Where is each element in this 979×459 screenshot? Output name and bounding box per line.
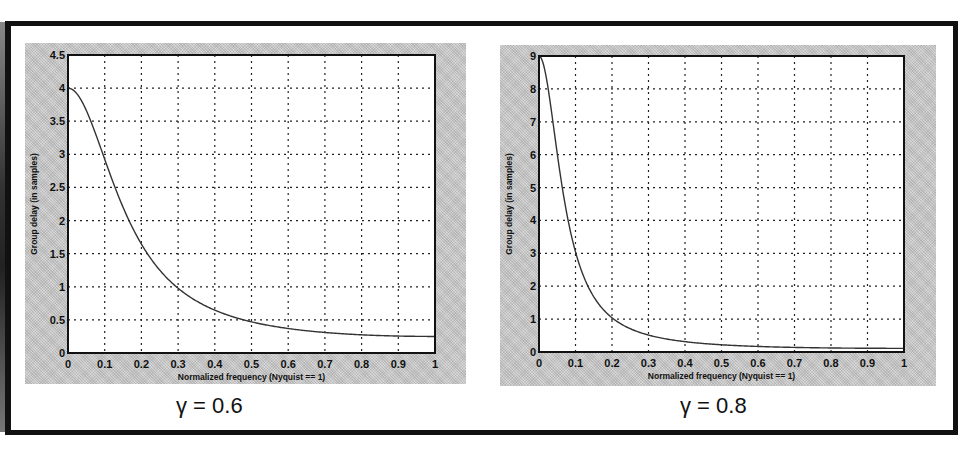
svg-text:0.5: 0.5 <box>244 358 259 370</box>
left-chart: 00.10.20.30.40.50.60.70.80.9100.511.522.… <box>25 43 466 384</box>
svg-text:3: 3 <box>59 148 65 160</box>
svg-text:4.5: 4.5 <box>50 49 65 61</box>
svg-text:4: 4 <box>59 82 66 94</box>
svg-text:0.1: 0.1 <box>568 357 583 369</box>
svg-text:1: 1 <box>901 357 907 369</box>
svg-text:0.2: 0.2 <box>134 358 149 370</box>
svg-text:9: 9 <box>530 50 536 62</box>
svg-text:0.9: 0.9 <box>860 357 875 369</box>
y-axis-label: Group delay (in samples) <box>504 153 514 255</box>
x-axis-label: Normalized frequency (Nyquist == 1) <box>648 371 796 381</box>
svg-text:0.9: 0.9 <box>391 358 406 370</box>
svg-text:0.6: 0.6 <box>281 358 296 370</box>
y-tick-labels: 00.511.522.533.544.5 <box>50 49 66 359</box>
svg-text:0.3: 0.3 <box>641 357 656 369</box>
right-chart: 00.10.20.30.40.50.60.70.80.910123456789N… <box>500 45 936 386</box>
svg-text:0.7: 0.7 <box>787 357 802 369</box>
y-tick-labels: 0123456789 <box>530 50 537 358</box>
svg-text:0.6: 0.6 <box>750 357 765 369</box>
left-caption: γ = 0.6 <box>176 393 243 419</box>
svg-text:0.3: 0.3 <box>170 358 185 370</box>
svg-text:2.5: 2.5 <box>50 181 65 193</box>
svg-text:0.8: 0.8 <box>354 358 369 370</box>
x-tick-labels: 00.10.20.30.40.50.60.70.80.91 <box>536 357 907 369</box>
svg-text:0: 0 <box>530 346 536 358</box>
svg-text:7: 7 <box>530 116 536 128</box>
svg-text:2: 2 <box>530 280 536 292</box>
svg-text:0: 0 <box>536 357 542 369</box>
svg-text:0.5: 0.5 <box>50 314 65 326</box>
svg-text:0.1: 0.1 <box>97 358 112 370</box>
svg-text:0.4: 0.4 <box>677 357 693 369</box>
svg-text:0: 0 <box>59 347 65 359</box>
x-tick-labels: 00.10.20.30.40.50.60.70.80.91 <box>65 358 438 370</box>
svg-text:0: 0 <box>65 358 71 370</box>
right-chart-panel: 00.10.20.30.40.50.60.70.80.910123456789N… <box>500 45 936 386</box>
svg-text:1.5: 1.5 <box>50 248 65 260</box>
svg-text:0.2: 0.2 <box>604 357 619 369</box>
y-axis-label: Group delay (in samples) <box>29 153 39 255</box>
svg-text:0.7: 0.7 <box>317 358 332 370</box>
left-chart-panel: 00.10.20.30.40.50.60.70.80.9100.511.522.… <box>25 43 466 384</box>
svg-text:1: 1 <box>59 281 65 293</box>
svg-text:6: 6 <box>530 149 536 161</box>
svg-text:0.4: 0.4 <box>207 358 223 370</box>
svg-text:2: 2 <box>59 215 65 227</box>
svg-text:0.5: 0.5 <box>714 357 729 369</box>
svg-text:8: 8 <box>530 83 536 95</box>
x-axis-label: Normalized frequency (Nyquist == 1) <box>178 372 326 382</box>
right-caption: γ = 0.8 <box>680 393 747 419</box>
svg-text:4: 4 <box>530 214 537 226</box>
svg-text:1: 1 <box>530 313 536 325</box>
svg-text:1: 1 <box>432 358 438 370</box>
plot-area <box>539 56 904 352</box>
svg-text:3.5: 3.5 <box>50 115 65 127</box>
svg-text:5: 5 <box>530 182 536 194</box>
svg-text:0.8: 0.8 <box>823 357 838 369</box>
svg-text:3: 3 <box>530 247 536 259</box>
